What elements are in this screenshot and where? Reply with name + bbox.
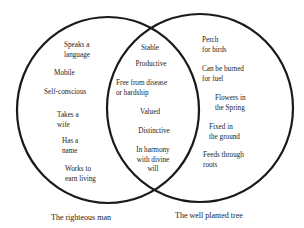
left-item-has-name: Has a name bbox=[62, 137, 78, 156]
left-caption: The righteous man bbox=[51, 213, 111, 223]
right-caption: The well planted tree bbox=[175, 211, 243, 221]
intersection-item-distinctive: Distinctive bbox=[127, 127, 181, 137]
left-item-mobile: Mobile bbox=[54, 69, 75, 79]
left-item-works-to-earn: Works to earn living bbox=[65, 165, 96, 184]
left-item-takes-wife: Takes a wife bbox=[57, 111, 79, 130]
right-item-flowers-spring: Flowers in the Spring bbox=[215, 94, 246, 113]
left-item-self-conscious: Self-conscious bbox=[44, 88, 86, 98]
right-item-perch-for-birds: Perch for birds bbox=[202, 36, 227, 55]
right-item-feeds-roots: Feeds through roots bbox=[203, 151, 244, 170]
right-item-burned-for-fuel: Can be burned for fuel bbox=[202, 65, 244, 84]
intersection-item-free-from-disease: Free from disease or hardship bbox=[116, 79, 167, 98]
left-item-speaks-language: Speaks a language bbox=[64, 41, 90, 60]
intersection-item-stable: Stable bbox=[130, 44, 170, 54]
intersection-item-in-harmony: In harmony with divine will bbox=[126, 146, 180, 175]
intersection-item-valued: Valued bbox=[128, 108, 172, 118]
right-item-fixed-ground: Fixed in the ground bbox=[209, 123, 240, 142]
intersection-item-productive: Productive bbox=[125, 60, 177, 70]
